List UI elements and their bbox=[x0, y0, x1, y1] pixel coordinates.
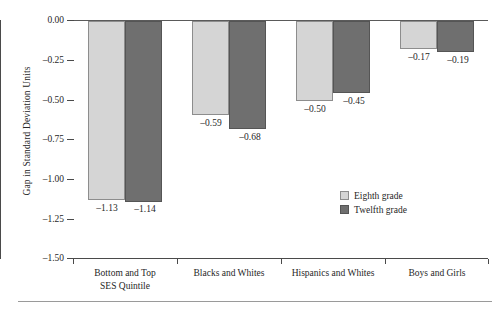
x-category-label-ses-line2: SES Quintile bbox=[65, 280, 185, 293]
y-axis-line bbox=[0, 20, 1, 259]
y-tick-mark bbox=[67, 20, 74, 21]
bar-chart-figure: Gap in Standard Deviation Units 0.00 –0.… bbox=[0, 0, 502, 316]
legend-item-twelfth-grade: Twelfth grade bbox=[340, 203, 407, 216]
bar-eighth-grade-blacks-whites bbox=[192, 21, 229, 115]
value-label-twelfth-grade-blacks-whites: –0.68 bbox=[229, 132, 271, 142]
value-label-eighth-grade-blacks-whites: –0.59 bbox=[190, 118, 232, 128]
y-tick-mark bbox=[67, 139, 74, 140]
x-tick-mark bbox=[385, 259, 386, 264]
y-tick-mark bbox=[67, 179, 74, 180]
value-label-twelfth-grade-boys-girls: –0.19 bbox=[437, 55, 479, 65]
value-label-eighth-grade-ses: –1.13 bbox=[86, 203, 128, 213]
x-category-label-ses-line1: Bottom and Top bbox=[65, 267, 185, 280]
bar-eighth-grade-ses bbox=[88, 21, 125, 200]
bar-twelfth-grade-hispanics-whites bbox=[333, 21, 370, 93]
y-tick-label: –0.25 bbox=[24, 55, 64, 65]
footer-divider bbox=[18, 301, 492, 302]
bar-twelfth-grade-blacks-whites bbox=[229, 21, 266, 129]
x-category-label-boys-girls-line1: Boys and Girls bbox=[377, 267, 497, 280]
value-label-eighth-grade-hispanics-whites: –0.50 bbox=[294, 104, 336, 114]
bar-twelfth-grade-boys-girls bbox=[437, 21, 474, 52]
bar-twelfth-grade-ses bbox=[125, 21, 162, 202]
y-tick-label: –1.50 bbox=[24, 253, 64, 263]
y-tick-mark bbox=[67, 219, 74, 220]
legend-label-eighth-grade: Eighth grade bbox=[354, 191, 403, 201]
y-tick-label: –0.75 bbox=[24, 134, 64, 144]
bar-eighth-grade-boys-girls bbox=[400, 21, 437, 49]
legend-item-eighth-grade: Eighth grade bbox=[340, 189, 407, 202]
y-tick-mark bbox=[67, 60, 74, 61]
chart-legend: Eighth grade Twelfth grade bbox=[340, 189, 407, 217]
x-tick-mark bbox=[488, 259, 489, 264]
value-label-twelfth-grade-hispanics-whites: –0.45 bbox=[333, 96, 375, 106]
legend-label-twelfth-grade: Twelfth grade bbox=[354, 205, 407, 215]
x-category-label-hispanics-whites-line1: Hispanics and Whites bbox=[273, 267, 393, 280]
y-tick-label: –1.00 bbox=[24, 174, 64, 184]
bar-eighth-grade-hispanics-whites bbox=[296, 21, 333, 101]
y-tick-label: –1.25 bbox=[24, 214, 64, 224]
x-tick-mark bbox=[73, 259, 74, 264]
x-category-label-blacks-whites: Blacks and Whites bbox=[169, 267, 289, 280]
x-tick-mark bbox=[281, 259, 282, 264]
x-tick-mark bbox=[177, 259, 178, 264]
x-category-label-boys-girls: Boys and Girls bbox=[377, 267, 497, 280]
legend-swatch-eighth-grade bbox=[340, 191, 349, 200]
x-category-label-ses: Bottom and Top SES Quintile bbox=[65, 267, 185, 293]
y-tick-label: 0.00 bbox=[24, 15, 64, 25]
x-category-label-blacks-whites-line1: Blacks and Whites bbox=[169, 267, 289, 280]
value-label-eighth-grade-boys-girls: –0.17 bbox=[398, 52, 440, 62]
x-category-label-hispanics-whites: Hispanics and Whites bbox=[273, 267, 393, 280]
y-tick-mark bbox=[67, 100, 74, 101]
value-label-twelfth-grade-ses: –1.14 bbox=[124, 204, 166, 214]
y-tick-label: –0.50 bbox=[24, 95, 64, 105]
legend-swatch-twelfth-grade bbox=[340, 205, 349, 214]
